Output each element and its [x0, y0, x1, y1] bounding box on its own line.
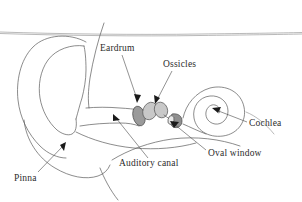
oval-window-leader-line: [174, 124, 206, 150]
label-eardrum: Eardrum: [100, 44, 135, 54]
pinna-leader-line: [38, 146, 63, 172]
head-outline-path: [0, 32, 302, 34]
canal-entrance-upper-path: [86, 107, 139, 110]
label-oval-window: Oval window: [208, 149, 262, 159]
ear-canal-lower-wall-path: [80, 123, 139, 126]
pinna-lobe-path: [24, 120, 110, 178]
label-auditory-canal: Auditory canal: [119, 159, 179, 169]
label-cochlea: Cochlea: [249, 119, 282, 129]
cochlea-leader-line: [216, 110, 247, 122]
ear-anatomy-diagram: Eardrum Ossicles Cochlea Oval window Aud…: [0, 0, 302, 202]
eardrum-arrowhead: [134, 94, 141, 103]
concha-path: [76, 46, 86, 119]
pinna-outer-helix-path: [18, 36, 86, 158]
jaw-contour-path: [76, 132, 196, 149]
ear-anatomy-illustration: [0, 0, 302, 202]
cochlea-base-path: [183, 124, 206, 134]
auditory-canal-arrowhead: [113, 114, 120, 121]
ossicles-leader-line: [157, 71, 172, 100]
pinna-antihelix-path: [39, 46, 84, 135]
eardrum-leader-line: [122, 55, 137, 99]
cochlea-outer-path: [183, 87, 245, 136]
label-ossicles: Ossicles: [163, 60, 196, 70]
label-pinna: Pinna: [14, 174, 37, 184]
neck-contour-path: [100, 168, 118, 200]
pinna-arrowhead: [60, 142, 66, 151]
